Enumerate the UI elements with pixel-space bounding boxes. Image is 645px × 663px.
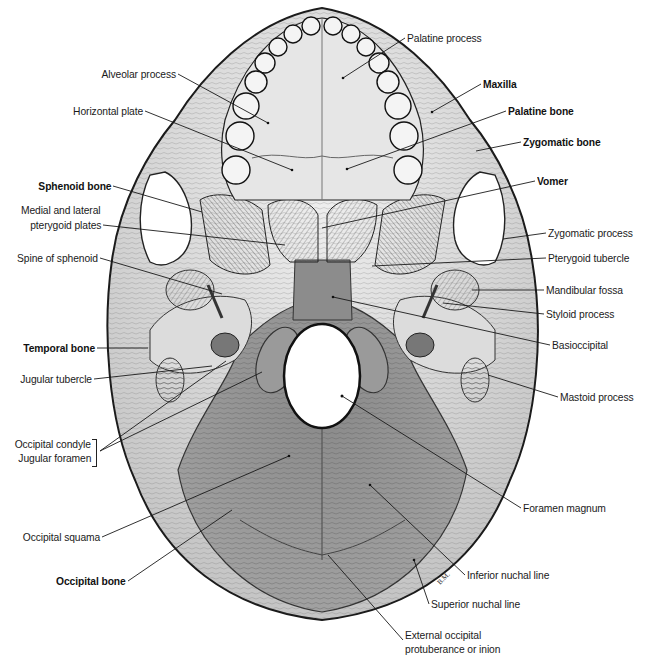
label-sphenoid-bone: Sphenoid bone <box>38 180 111 193</box>
label-occipital-condyle: Occipital condyle <box>15 438 91 451</box>
label-mastoid-process: Mastoid process <box>560 391 634 404</box>
label-spine-of-sphenoid: Spine of sphenoid <box>17 252 98 265</box>
label-palatine-bone: Palatine bone <box>508 105 574 118</box>
label-styloid-process: Styloid process <box>546 308 614 321</box>
label-basioccipital: Basioccipital <box>552 339 608 352</box>
label-horizontal-plate: Horizontal plate <box>73 105 143 118</box>
label-zygomatic-process: Zygomatic process <box>548 227 633 240</box>
label-bracket <box>92 439 97 467</box>
label-occipital-bone: Occipital bone <box>56 575 126 588</box>
skull-base-illustration: B.M. <box>0 0 645 663</box>
label-jugular-foramen: Jugular foramen <box>18 452 91 465</box>
label-jugular-tubercle: Jugular tubercle <box>20 373 92 386</box>
label-occipital-squama: Occipital squama <box>23 531 100 544</box>
label-superior-nuchal-line: Superior nuchal line <box>431 598 520 611</box>
label-external-occipital: External occipital <box>405 629 481 642</box>
label-pterygoid-plates: pterygoid plates <box>30 219 101 232</box>
label-maxilla: Maxilla <box>483 78 517 91</box>
label-foramen-magnum: Foramen magnum <box>523 502 606 515</box>
label-alveolar-process: Alveolar process <box>101 68 176 81</box>
label-zygomatic-bone: Zygomatic bone <box>523 136 601 149</box>
label-mandibular-fossa: Mandibular fossa <box>546 284 623 297</box>
label-palatine-process: Palatine process <box>407 32 482 45</box>
label-protuberance-inion: protuberance or inion <box>405 643 500 656</box>
label-vomer: Vomer <box>537 175 568 188</box>
foramen-magnum <box>284 324 360 428</box>
label-medial-lateral: Medial and lateral <box>21 204 101 217</box>
label-temporal-bone: Temporal bone <box>23 342 95 355</box>
label-inferior-nuchal-line: Inferior nuchal line <box>467 569 549 582</box>
label-pterygoid-tubercle: Pterygoid tubercle <box>548 252 629 265</box>
